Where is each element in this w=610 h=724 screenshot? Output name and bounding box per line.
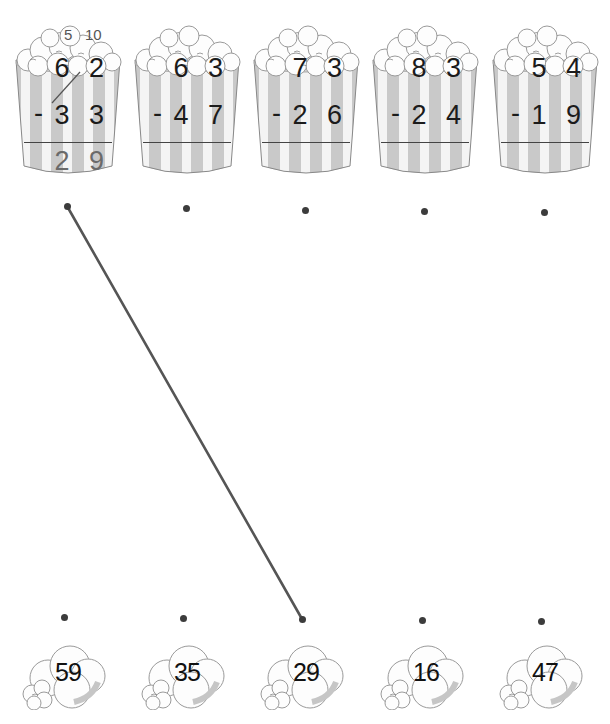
match-line-p1-to-29 [67, 206, 302, 619]
sum-rule [262, 142, 350, 143]
subtrahend: 1 9 [531, 100, 587, 131]
answer-choice-35[interactable]: 35 [133, 640, 233, 710]
popcorn-bucket-problem-1: - 6 2 3 3 2 9 510 [8, 8, 128, 178]
answer-dot-2[interactable] [180, 615, 187, 622]
popcorn-bucket-icon [365, 8, 485, 178]
minus-sign: - [272, 98, 281, 129]
answer-dot-5[interactable] [538, 618, 545, 625]
answer-choice-value: 29 [252, 658, 352, 687]
answer-choice-value: 35 [133, 658, 233, 687]
minus-sign: - [391, 98, 400, 129]
popcorn-bucket-problem-2: - 6 3 4 7 [127, 8, 247, 178]
minuend: 5 4 [531, 53, 587, 84]
problem-dot-5[interactable] [541, 209, 548, 216]
subtrahend: 2 4 [411, 100, 467, 131]
answer-choice-value: 16 [372, 658, 472, 687]
problem-dot-2[interactable] [183, 205, 190, 212]
answer-choice-47[interactable]: 47 [491, 640, 591, 710]
minuend: 7 3 [292, 53, 348, 84]
popcorn-bucket-problem-4: - 8 3 2 4 [365, 8, 485, 178]
sum-rule [143, 142, 231, 143]
popcorn-bucket-icon [485, 8, 605, 178]
minus-sign: - [153, 98, 162, 129]
answer-choice-29[interactable]: 29 [252, 640, 352, 710]
popcorn-bucket-icon [246, 8, 366, 178]
problem-dot-3[interactable] [302, 207, 309, 214]
popcorn-bucket-problem-3: - 7 3 2 6 [246, 8, 366, 178]
sum-rule [501, 142, 589, 143]
answer-choice-value: 59 [14, 658, 114, 687]
problem-dot-1[interactable] [64, 203, 71, 210]
minus-sign: - [511, 98, 520, 129]
problem-dot-4[interactable] [421, 208, 428, 215]
popcorn-bucket-icon [127, 8, 247, 178]
subtrahend: 4 7 [173, 100, 229, 131]
answer-dot-4[interactable] [419, 617, 426, 624]
subtrahend: 2 6 [292, 100, 348, 131]
strike-through-mark [8, 8, 128, 178]
minuend: 6 3 [173, 53, 229, 84]
minuend: 8 3 [411, 53, 467, 84]
answer-choice-16[interactable]: 16 [372, 640, 472, 710]
answer-dot-1[interactable] [61, 614, 68, 621]
answer-dot-3[interactable] [299, 616, 306, 623]
sum-rule [381, 142, 469, 143]
answer-choice-59[interactable]: 59 [14, 640, 114, 710]
answer-choice-value: 47 [491, 658, 591, 687]
popcorn-bucket-problem-5: - 5 4 1 9 [485, 8, 605, 178]
